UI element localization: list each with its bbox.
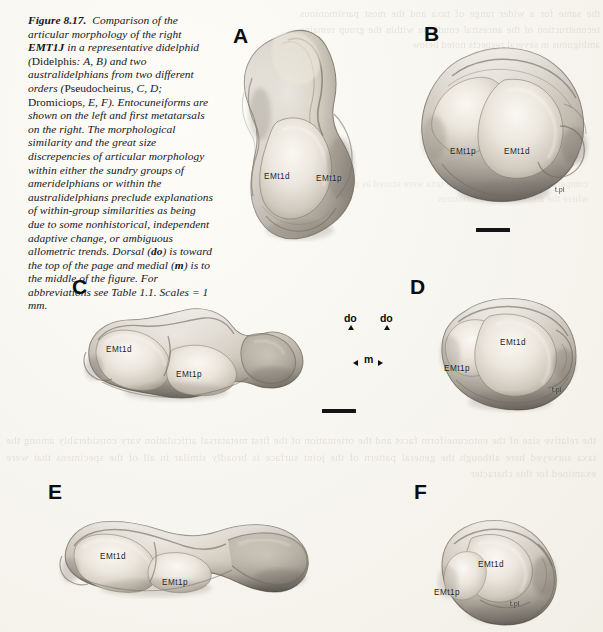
label-b-emt1d: EMt1d — [504, 147, 530, 156]
panel-letter-f: F — [414, 480, 427, 504]
scale-bar-lower — [322, 409, 356, 413]
orientation-dorsal-right-label: do — [380, 312, 392, 324]
figure-number: Figure 8.17. — [28, 14, 87, 26]
label-e-emt1d: EMt1d — [100, 552, 126, 561]
arrow-left-icon — [353, 360, 358, 366]
caption-taxon-didelphis: Didelphis — [32, 55, 77, 67]
specimen-drawing-a — [222, 18, 382, 258]
orientation-dorsal-left-label: do — [344, 312, 356, 324]
panel-letter-b: B — [424, 22, 439, 46]
label-b-emt1p: EMt1p — [450, 147, 476, 156]
specimen-drawing-d — [428, 288, 588, 418]
panel-letter-a: A — [233, 24, 248, 48]
label-e-emt1p: EMt1p — [162, 578, 188, 587]
scale-bar-upper — [476, 228, 510, 232]
panel-letter-d: D — [410, 275, 425, 299]
caption-taxon-dromiciops: Dromiciops — [28, 96, 82, 108]
figure-page: the same for a wider range of taxa and t… — [0, 0, 603, 632]
label-f-emt1d: EMt1d — [478, 560, 504, 569]
panel-b: EMt1p EMt1d t.pl — [408, 34, 598, 224]
panel-c: EMt1d EMt1p — [72, 298, 312, 418]
label-d-tpl: t.pl — [552, 386, 562, 393]
label-a-emt1d: EMt1d — [264, 172, 290, 181]
caption-taxon-pseudocheirus: Pseudocheirus — [64, 82, 130, 94]
orientation-key: do do m — [340, 312, 406, 384]
arrow-up-icon-left — [348, 325, 354, 330]
label-f-tpl: t.pl — [510, 600, 520, 607]
bleed-through-text-bottom: the relative size of the entocuneiform f… — [6, 432, 596, 482]
panel-e: EMt1d EMt1p — [52, 508, 322, 618]
caption-abbr-dorsal: do — [151, 245, 163, 257]
label-d-emt1p: EMt1p — [444, 364, 470, 373]
label-c-emt1p: EMt1p — [176, 370, 202, 379]
panel-letter-c: C — [72, 275, 87, 299]
caption-abbr-medial: m — [175, 259, 184, 271]
label-c-emt1d: EMt1d — [106, 345, 132, 354]
caption-term-emt1j: EMT1J — [28, 41, 64, 53]
panel-f: EMt1d EMt1p t.pl — [428, 510, 568, 630]
label-b-tpl: t.pl — [555, 186, 565, 193]
specimen-drawing-b — [408, 34, 598, 224]
panel-d: EMt1d EMt1p t.pl — [428, 288, 588, 418]
arrow-right-icon — [378, 360, 383, 366]
panel-letter-e: E — [48, 480, 62, 504]
label-a-emt1p: EMt1p — [316, 174, 342, 183]
label-d-emt1d: EMt1d — [500, 338, 526, 347]
specimen-drawing-e — [52, 508, 322, 618]
label-f-emt1p: EMt1p — [434, 588, 460, 597]
figure-caption: Figure 8.17. Comparison of the articular… — [28, 14, 214, 313]
specimen-drawing-c — [72, 298, 312, 418]
arrow-up-icon-right — [384, 325, 390, 330]
panel-a: EMt1d EMt1p — [222, 18, 382, 258]
specimen-drawing-f — [428, 510, 568, 630]
orientation-medial-label: m — [364, 353, 373, 365]
